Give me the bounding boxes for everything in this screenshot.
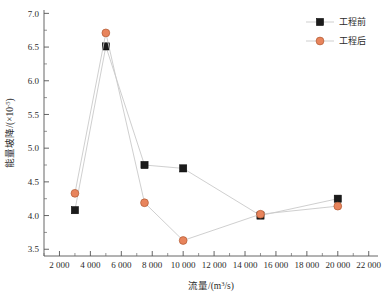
legend-label: 工程后 [339,36,366,46]
series-line [75,33,338,241]
data-point-marker [141,161,148,168]
y-tick-label: 6.0 [28,76,40,86]
data-point-marker [71,207,78,214]
chart-figure: 3.54.04.55.05.56.06.57.0 2 0004 0006 000… [0,0,391,297]
x-tick-label: 4 000 [80,260,101,270]
x-tick-label: 14 000 [233,260,258,270]
data-point-marker [257,210,265,218]
x-tick-label: 16 000 [264,260,289,270]
legend-label: 工程前 [339,16,366,27]
x-tick-label: 8 000 [142,260,163,270]
data-point-marker [141,199,149,207]
data-point-marker [180,165,187,172]
x-tick-label: 22 000 [356,260,381,270]
energy-slope-line-chart: 3.54.04.55.05.56.06.57.0 2 0004 0006 000… [0,0,391,297]
series-1 [71,43,341,219]
x-tick-label: 6 000 [111,260,132,270]
legend-marker [316,18,323,25]
data-point-marker [102,29,110,37]
y-tick-label: 4.0 [28,211,40,221]
y-tick-label: 5.0 [28,143,40,153]
x-axis-ticks: 2 0004 0006 0008 00010 00012 00014 00016… [44,251,382,270]
data-point-marker [71,189,79,197]
legend-marker [316,37,324,45]
y-tick-label: 5.5 [28,110,40,120]
legend-item-1[interactable]: 工程前 [306,16,366,27]
y-axis-ticks: 3.54.04.55.05.56.06.57.0 [28,9,49,255]
x-tick-label: 2 000 [49,260,70,270]
y-tick-label: 6.5 [28,42,40,52]
data-point-marker [179,237,187,245]
data-series-layer [71,29,342,244]
data-point-marker [334,202,342,210]
x-tick-label: 12 000 [202,260,227,270]
x-tick-label: 18 000 [294,260,319,270]
series-2 [71,29,342,244]
x-tick-label: 10 000 [171,260,196,270]
chart-legend: 工程前工程后 [306,16,366,46]
x-axis-title: 流量/(m3/s) [188,280,234,292]
data-point-marker [334,195,341,202]
y-tick-label: 7.0 [28,9,40,19]
y-tick-label: 3.5 [28,244,40,254]
axis-frame [44,10,378,256]
x-tick-label: 20 000 [325,260,350,270]
legend-item-2[interactable]: 工程后 [306,36,366,46]
y-tick-label: 4.5 [28,177,40,187]
y-axis-title: 能量坡降/(×10-5) [4,98,16,167]
